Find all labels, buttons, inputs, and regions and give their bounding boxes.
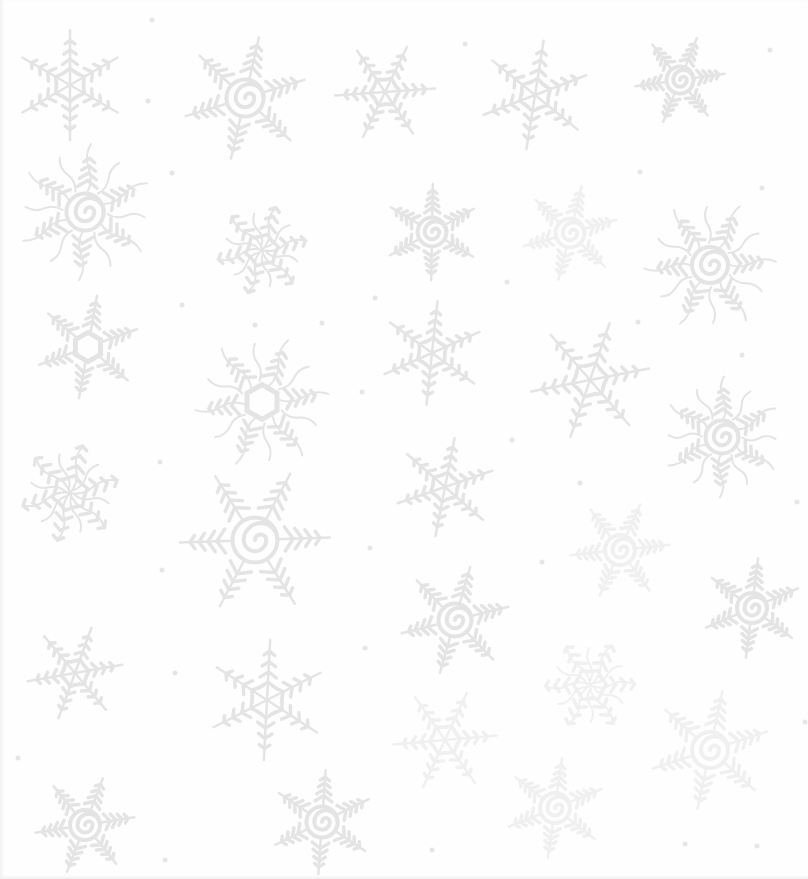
snowflake-icon <box>386 184 477 280</box>
snowflake-icon <box>642 193 777 338</box>
snow-dot-icon <box>363 646 368 651</box>
snow-dot-icon <box>373 296 378 301</box>
snowflake-icon <box>18 30 122 140</box>
snow-dot-icon <box>253 323 258 328</box>
snowflake-icon <box>335 44 436 141</box>
snowflake-icon <box>17 443 122 543</box>
snow-dot-icon <box>803 720 808 725</box>
snow-dot-icon <box>16 756 21 761</box>
snowflake-icon <box>36 294 139 399</box>
snowflake-icon <box>703 557 801 658</box>
snow-dot-icon <box>320 321 325 326</box>
snowflake-icon <box>183 35 307 160</box>
snowflake-icon <box>506 757 605 858</box>
snow-dot-icon <box>636 320 641 325</box>
snow-dot-icon <box>510 438 515 443</box>
snow-dot-icon <box>578 481 583 486</box>
snow-dot-icon <box>150 18 155 23</box>
snow-dot-icon <box>505 280 510 285</box>
snow-dot-icon <box>768 48 773 53</box>
snowflake-icon <box>10 143 161 281</box>
snowflake-icon <box>392 689 497 790</box>
snow-dot-icon <box>368 546 373 551</box>
snow-dot-icon <box>683 842 688 847</box>
snowflake-pattern-background <box>0 0 808 879</box>
snowflake-icon <box>634 36 725 125</box>
snowflake-icon <box>209 640 325 761</box>
snowflake-icon <box>272 770 373 875</box>
snow-dot-icon <box>740 353 745 358</box>
snow-dot-icon <box>173 671 178 676</box>
snowflake-icon <box>522 185 619 282</box>
snow-dot-icon <box>795 500 800 505</box>
snow-dot-icon <box>158 460 163 465</box>
snowflake-icon <box>26 625 123 720</box>
snow-dot-icon <box>638 170 643 175</box>
snowflake-icon <box>214 203 310 297</box>
snowflake-icon <box>650 689 770 810</box>
snow-dot-icon <box>540 560 545 565</box>
snowflake-icon <box>180 468 331 612</box>
snowflake-icon <box>400 565 511 676</box>
snowflake-icon <box>192 330 333 475</box>
snow-dot-icon <box>170 171 175 176</box>
snow-dot-icon <box>463 42 468 47</box>
snow-dot-icon <box>163 858 168 863</box>
snowflake-pattern <box>0 0 808 879</box>
snowflake-icon <box>655 376 789 498</box>
snow-dot-icon <box>755 844 760 849</box>
snow-dot-icon <box>146 99 151 104</box>
snowflake-icon <box>545 636 635 734</box>
snowflake-icon <box>480 39 589 150</box>
snow-dot-icon <box>760 186 765 191</box>
snowflake-icon <box>569 501 670 599</box>
snow-dot-icon <box>430 848 435 853</box>
snowflake-icon <box>381 300 483 405</box>
snowflake-icon <box>395 436 495 537</box>
snow-dot-icon <box>180 303 185 308</box>
snow-dot-icon <box>360 390 365 395</box>
snowflake-icon <box>529 320 650 440</box>
snowflake-icon <box>34 775 135 874</box>
snow-dot-icon <box>160 568 165 573</box>
